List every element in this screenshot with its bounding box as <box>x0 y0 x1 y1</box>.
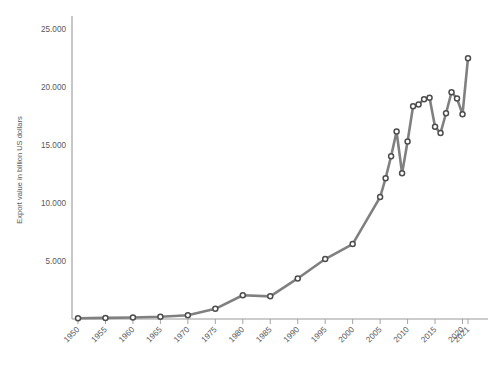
data-point-marker[interactable] <box>394 129 399 134</box>
x-axis-tick-label: 2010 <box>392 325 412 345</box>
data-point-marker[interactable] <box>411 104 416 109</box>
data-point-marker[interactable] <box>240 293 245 298</box>
data-point-marker[interactable] <box>405 139 410 144</box>
data-point-marker[interactable] <box>389 154 394 159</box>
x-axis-tick-label: 2021 <box>452 325 472 345</box>
x-axis-tick-label: 2005 <box>364 325 384 345</box>
data-point-marker[interactable] <box>383 176 388 181</box>
chart-canvas: Export value in billion US dollars 5.000… <box>0 0 496 365</box>
x-axis-tick-label: 1980 <box>227 325 247 345</box>
data-point-marker[interactable] <box>103 315 108 320</box>
data-series-line <box>78 58 468 318</box>
data-point-marker[interactable] <box>444 111 449 116</box>
line-chart: Export value in billion US dollars 5.000… <box>0 0 496 365</box>
x-axis-tick-label: 1960 <box>117 325 137 345</box>
data-point-marker[interactable] <box>433 124 438 129</box>
x-axis-tick-label: 1950 <box>62 325 82 345</box>
x-axis-tick-label: 2015 <box>419 325 439 345</box>
x-axis-tick-label: 1990 <box>282 325 302 345</box>
data-point-marker[interactable] <box>455 96 460 101</box>
data-point-marker[interactable] <box>350 242 355 247</box>
y-axis-tick-label: 15.000 <box>41 141 66 150</box>
x-axis-tick-label: 1985 <box>254 325 274 345</box>
data-point-marker[interactable] <box>295 276 300 281</box>
data-point-marker[interactable] <box>130 315 135 320</box>
data-point-marker[interactable] <box>268 294 273 299</box>
data-point-marker[interactable] <box>158 314 163 319</box>
x-axis-tick-label: 1970 <box>172 325 192 345</box>
y-axis-tick-label: 20.000 <box>41 83 66 92</box>
y-axis-tick-label: 5.000 <box>46 257 67 266</box>
y-axis-tick-label: 10.000 <box>41 199 66 208</box>
data-point-marker[interactable] <box>438 130 443 135</box>
data-point-marker[interactable] <box>76 316 81 321</box>
data-point-marker[interactable] <box>378 195 383 200</box>
x-axis-tick-label: 1975 <box>199 325 219 345</box>
data-point-marker[interactable] <box>416 102 421 107</box>
data-point-marker[interactable] <box>400 171 405 176</box>
x-axis-tick-label: 1965 <box>145 325 165 345</box>
x-axis-tick-label: 1995 <box>309 325 329 345</box>
x-axis-tick-labels: 1950195519601965197019751980198519901995… <box>62 325 472 345</box>
y-axis-label: Export value in billion US dollars <box>15 116 24 224</box>
data-point-markers <box>76 56 471 321</box>
x-axis-tick-label: 2000 <box>337 325 357 345</box>
data-point-marker[interactable] <box>449 90 454 95</box>
data-point-marker[interactable] <box>422 97 427 102</box>
data-point-marker[interactable] <box>466 56 471 61</box>
data-point-marker[interactable] <box>213 306 218 311</box>
x-axis-tick-label: 1955 <box>90 325 110 345</box>
data-point-marker[interactable] <box>185 313 190 318</box>
data-point-marker[interactable] <box>460 112 465 117</box>
y-axis-tick-label: 25.000 <box>41 25 66 34</box>
data-point-marker[interactable] <box>427 95 432 100</box>
x-axis-tick-marks <box>78 319 468 324</box>
y-axis-tick-labels: 5.00010.00015.00020.00025.000 <box>41 25 66 266</box>
data-point-marker[interactable] <box>323 257 328 262</box>
